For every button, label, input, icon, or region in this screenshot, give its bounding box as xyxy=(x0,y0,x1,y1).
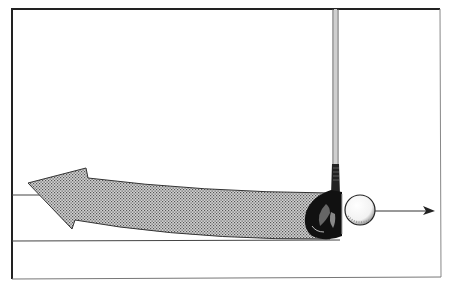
frame xyxy=(11,9,441,279)
golf-ball xyxy=(345,195,375,225)
golf-illustration xyxy=(0,0,451,285)
right-arrow-icon xyxy=(375,206,435,215)
illustration-canvas xyxy=(0,0,451,285)
ground-line xyxy=(12,240,340,241)
swing-path-arrow xyxy=(28,168,330,239)
club-shaft xyxy=(331,9,340,195)
